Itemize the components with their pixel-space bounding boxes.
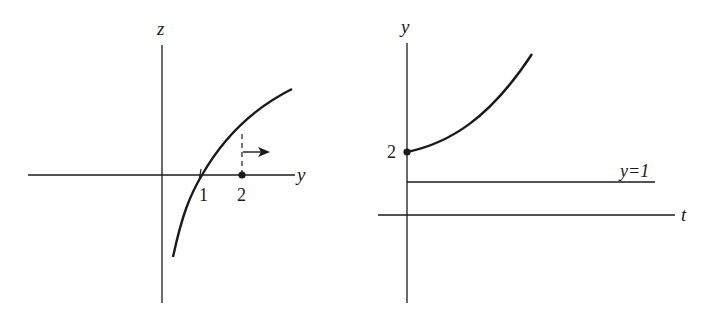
- tick-label-1: 1: [199, 185, 208, 205]
- left-plot: [28, 45, 295, 303]
- left-horizontal-axis-label: y: [295, 164, 306, 185]
- tick-label-2: 2: [237, 185, 246, 205]
- left-curve: [173, 89, 292, 257]
- equilibrium-label: y=1: [618, 161, 649, 181]
- right-horizontal-axis-label: t: [681, 204, 687, 225]
- point-2-dot: [238, 171, 245, 178]
- initial-value-label: 2: [387, 142, 396, 162]
- right-vertical-axis-label: y: [399, 16, 410, 37]
- left-vertical-axis-label: z: [156, 18, 165, 39]
- initial-point-dot: [403, 148, 410, 155]
- solution-curve: [407, 54, 532, 152]
- phase-line-diagram: z y 1 2 y t 2 y=1: [0, 0, 705, 328]
